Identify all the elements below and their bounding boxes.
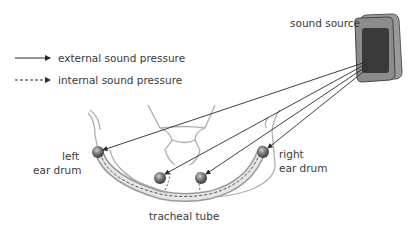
right-ear-drum [257,146,269,158]
speaker-icon [355,14,402,82]
legend-external-label: external sound pressure [58,52,185,65]
inner-left-ear-drum [154,172,166,184]
left-ear-label-line1: left [62,150,79,163]
left-ear-label-line2: ear drum [33,164,81,177]
tracheal-tube-label: tracheal tube [149,210,219,223]
legend-internal-label: internal sound pressure [58,74,182,87]
diagram-canvas [0,0,417,234]
right-ear-label-line1: right [279,148,304,161]
body-outline [88,105,280,198]
inner-right-ear-drum [195,172,207,184]
sound-source-label: sound source [290,17,360,30]
left-ear-drum [92,146,104,158]
right-ear-label-line2: ear drum [279,162,327,175]
tracheal-tube [100,150,262,198]
